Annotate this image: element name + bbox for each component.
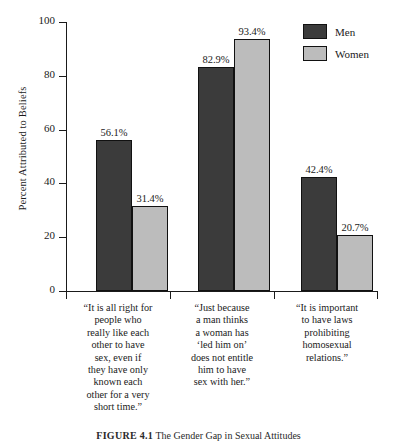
bar-value-men-0: 56.1% (100, 127, 127, 138)
bar-men-1[interactable]: 82.9% (198, 67, 234, 291)
cat-1-line-6: sex with her.” (170, 376, 274, 388)
cat-0-line-1: people who (64, 314, 172, 326)
bar-value-men-2: 42.4% (305, 164, 332, 175)
cat-1-line-5: him to have (170, 364, 274, 376)
legend-item-women[interactable]: Women (303, 46, 369, 61)
legend-label-men: Men (335, 26, 355, 38)
figure-caption-text: The Gender Gap in Sexual Attitudes (155, 430, 300, 441)
bar-value-women-2: 20.7% (341, 222, 368, 233)
legend-swatch-women-icon (303, 46, 327, 61)
cat-2-line-3: homosexual (272, 339, 382, 351)
cat-1-line-3: ‘led him on’ (170, 339, 274, 351)
y-tick-0: 0 (59, 291, 66, 292)
cat-1-line-1: a man thinks (170, 314, 274, 326)
y-tick-100: 100 (59, 22, 66, 23)
cat-2-line-0: “It is important (272, 302, 382, 314)
cat-0-line-4: sex, even if (64, 352, 172, 364)
x-category-label-2: “It is important to have laws prohibitin… (272, 302, 382, 364)
x-tick-0 (66, 292, 67, 299)
legend: Men Women (303, 24, 369, 68)
y-tick-label-40: 40 (44, 175, 55, 187)
bar-men-0[interactable]: 56.1% (96, 140, 132, 292)
cat-1-line-2: a woman has (170, 327, 274, 339)
legend-label-women: Women (335, 48, 369, 60)
y-axis-label: Percent Attributed to Beliefs (17, 49, 28, 249)
figure-caption: FIGURE 4.1 The Gender Gap in Sexual Atti… (0, 430, 397, 441)
x-tick-2 (274, 292, 275, 299)
cat-0-line-3: other to have (64, 339, 172, 351)
x-category-label-0: “It is all right for people who really l… (64, 302, 172, 414)
cat-2-line-2: prohibiting (272, 327, 382, 339)
y-tick-20: 20 (59, 237, 66, 238)
bar-value-women-1: 93.4% (238, 26, 265, 37)
y-axis-line (66, 22, 67, 292)
y-tick-label-80: 80 (44, 68, 55, 80)
cat-2-line-4: relations.” (272, 352, 382, 364)
legend-item-men[interactable]: Men (303, 24, 369, 39)
y-tick-label-20: 20 (44, 229, 55, 241)
y-tick-label-0: 0 (50, 283, 56, 295)
cat-0-line-5: they have only (64, 364, 172, 376)
bar-men-2[interactable]: 42.4% (301, 177, 337, 292)
y-tick-80: 80 (59, 76, 66, 77)
cat-0-line-6: known each (64, 376, 172, 388)
bar-value-men-1: 82.9% (202, 54, 229, 65)
cat-0-line-7: other for a very (64, 389, 172, 401)
x-tick-3 (377, 292, 378, 299)
legend-swatch-men-icon (303, 24, 327, 39)
cat-1-line-0: “Just because (170, 302, 274, 314)
cat-2-line-1: to have laws (272, 314, 382, 326)
bar-women-0[interactable]: 31.4% (132, 206, 168, 291)
x-axis-line (66, 291, 378, 292)
bar-women-2[interactable]: 20.7% (337, 235, 373, 291)
y-tick-60: 60 (59, 130, 66, 131)
cat-0-line-0: “It is all right for (64, 302, 172, 314)
bar-women-1[interactable]: 93.4% (234, 39, 270, 291)
cat-0-line-8: short time.” (64, 401, 172, 413)
x-tick-1 (170, 292, 171, 299)
figure-caption-tag: FIGURE 4.1 (96, 430, 153, 441)
x-category-label-1: “Just because a man thinks a woman has ‘… (170, 302, 274, 389)
y-tick-label-100: 100 (39, 14, 56, 26)
y-tick-40: 40 (59, 183, 66, 184)
cat-0-line-2: really like each (64, 327, 172, 339)
y-tick-label-60: 60 (44, 122, 55, 134)
bar-value-women-0: 31.4% (136, 193, 163, 204)
cat-1-line-4: does not entitle (170, 352, 274, 364)
